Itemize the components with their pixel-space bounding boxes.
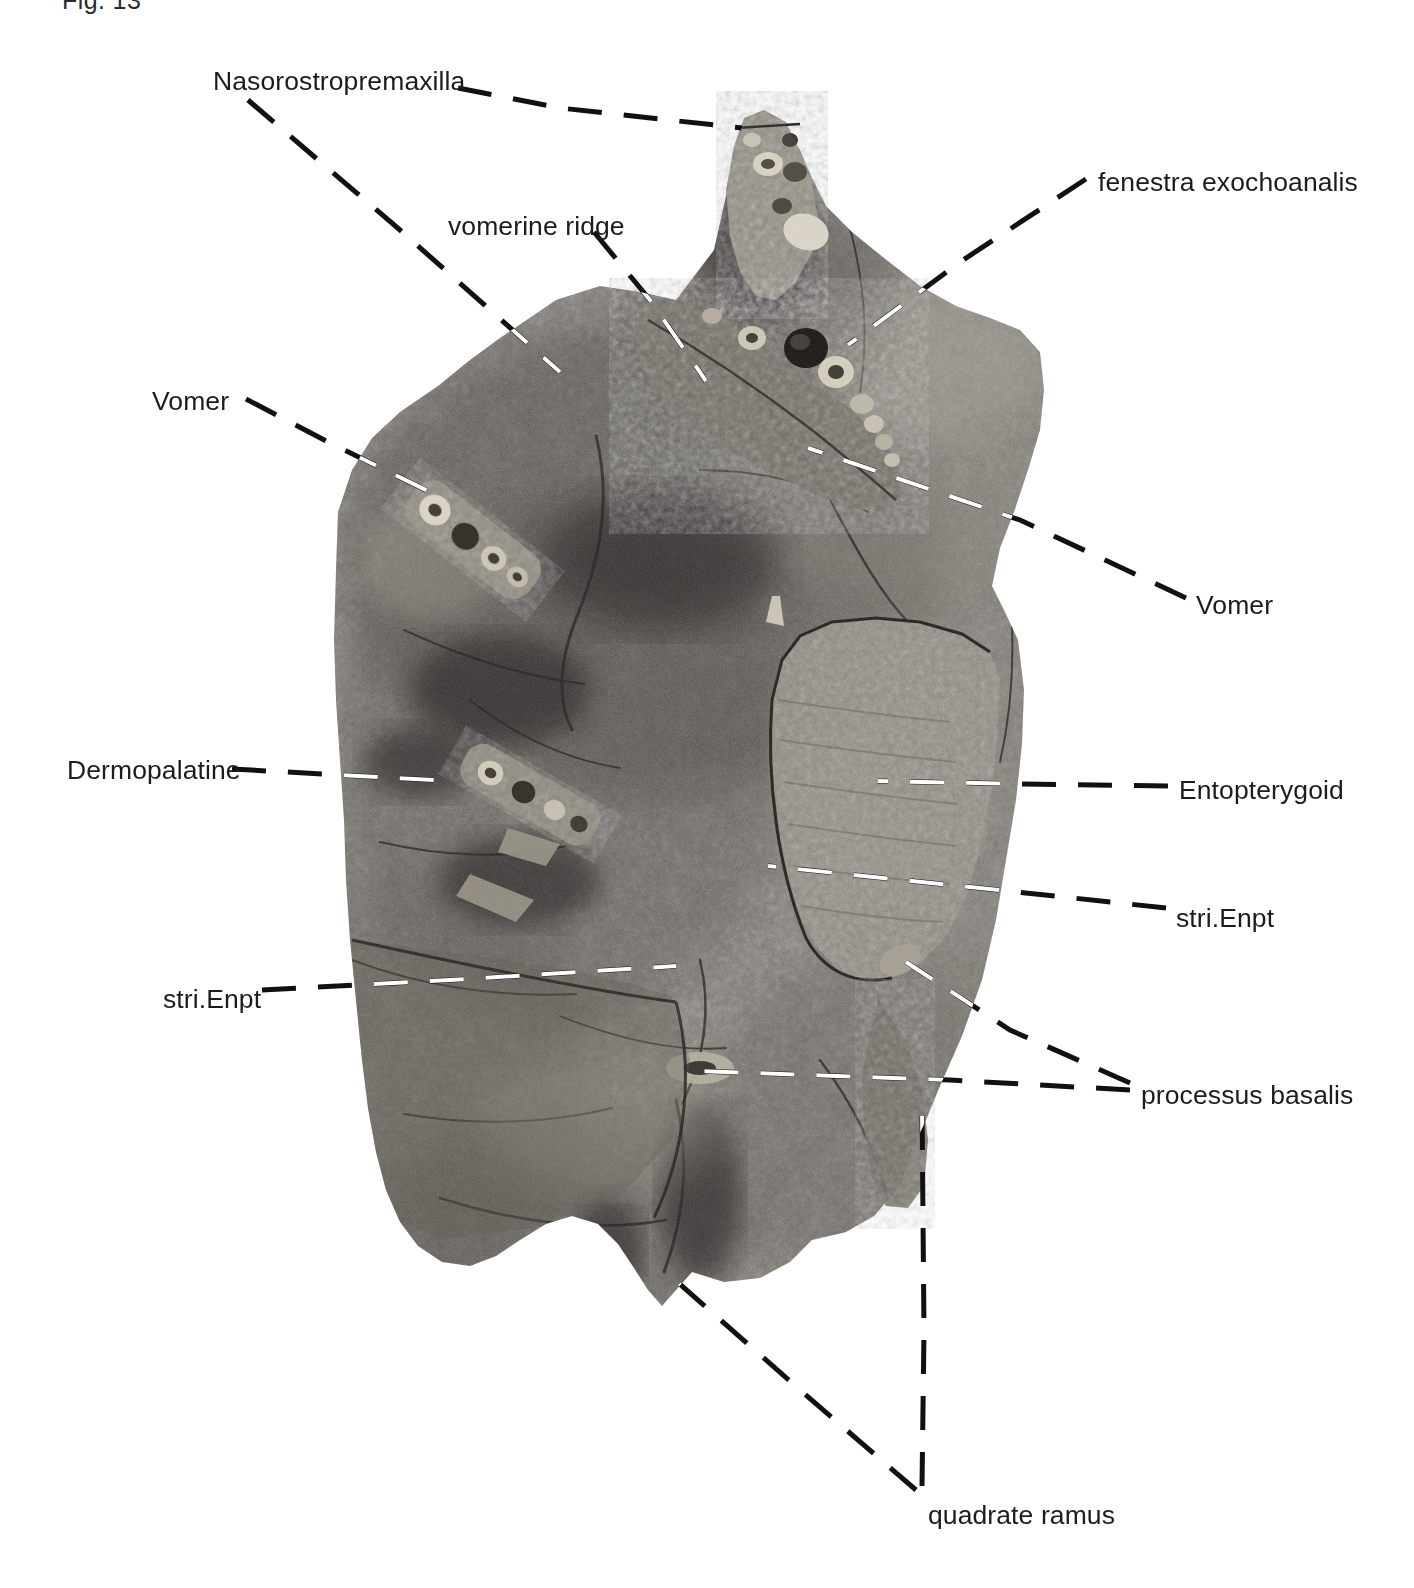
- label-vomerine-ridge: vomerine ridge: [448, 211, 625, 242]
- label-entopterygoid: Entopterygoid: [1179, 775, 1344, 806]
- figure-panel: Fig. 13: [0, 0, 1414, 1588]
- label-stri-enpt-right: stri.Enpt: [1176, 903, 1274, 934]
- label-quadrate-ramus: quadrate ramus: [928, 1500, 1115, 1531]
- label-processus-basalis: processus basalis: [1141, 1080, 1353, 1111]
- label-vomer-right: Vomer: [1196, 590, 1273, 621]
- label-fenestra-exochoanalis: fenestra exochoanalis: [1098, 167, 1358, 198]
- label-vomer-left: Vomer: [152, 386, 229, 417]
- label-nasorostropremaxilla: Nasorostropremaxilla: [213, 66, 465, 97]
- label-dermopalatine: Dermopalatine: [67, 755, 241, 786]
- label-stri-enpt-left: stri.Enpt: [163, 984, 261, 1015]
